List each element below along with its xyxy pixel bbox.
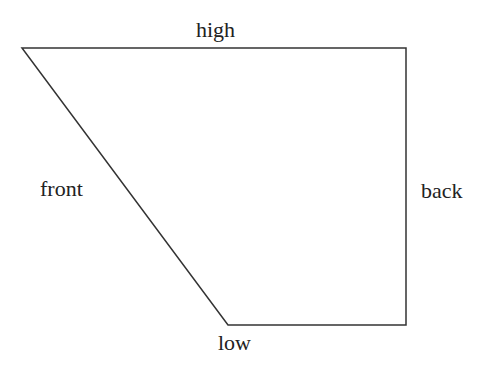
label-low: low bbox=[218, 332, 251, 354]
label-front: front bbox=[40, 178, 83, 200]
label-high: high bbox=[196, 19, 235, 41]
label-back: back bbox=[421, 180, 463, 202]
